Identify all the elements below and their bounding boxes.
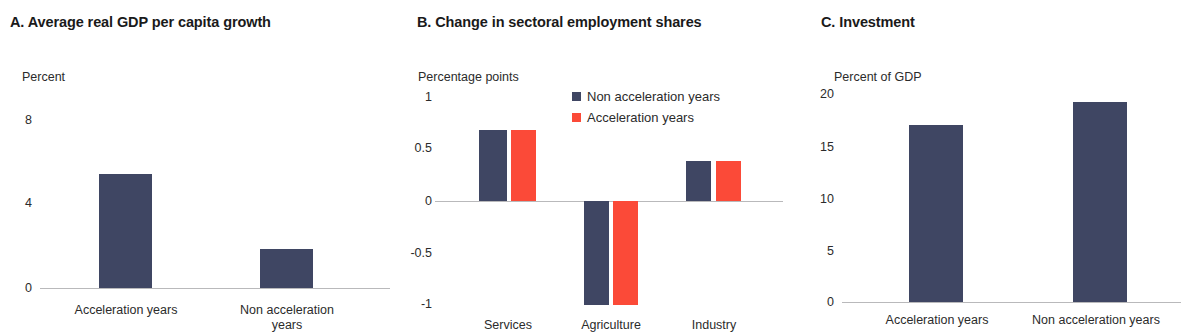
- legend-item-acceleration-years: Acceleration years: [572, 107, 720, 128]
- panel-c-title: C. Investment: [821, 13, 1161, 32]
- panel-a-bar-acceleration-years: [99, 174, 152, 288]
- panel-b-xlabel-services: Services: [458, 318, 558, 333]
- panel-b-ytick-neg1: -1: [402, 297, 432, 311]
- panel-a-baseline: [40, 288, 390, 289]
- panel-b-bar-services-acceleration: [511, 130, 536, 201]
- panel-a-title: A. Average real GDP per capita growth: [10, 13, 390, 32]
- panel-c-ytick-20: 20: [808, 87, 834, 101]
- panel-b-legend: Non acceleration years Acceleration year…: [572, 86, 720, 128]
- panel-c-ytick-5: 5: [808, 244, 834, 258]
- panel-b-bar-agriculture-acceleration: [613, 201, 638, 305]
- panel-a-xlabel-non-acceleration-years: Non acceleration years: [232, 303, 342, 333]
- panel-c-axis-unit: Percent of GDP: [834, 70, 922, 84]
- panel-c-ytick-0: 0: [808, 295, 834, 309]
- legend-swatch-non-acceleration-icon: [572, 92, 581, 101]
- legend-item-non-acceleration-years: Non acceleration years: [572, 86, 720, 107]
- panel-c-bar-acceleration-years: [909, 125, 963, 302]
- panel-a-ytick-4: 4: [8, 196, 32, 210]
- panel-b-bar-services-non-acceleration: [479, 130, 507, 201]
- panel-b-ytick-0: 0: [402, 194, 432, 208]
- panel-c-ytick-10: 10: [808, 192, 834, 206]
- panel-c-xlabel-acceleration-years: Acceleration years: [876, 313, 998, 328]
- panel-b-bar-industry-non-acceleration: [686, 161, 711, 201]
- panel-c-ytick-15: 15: [808, 140, 834, 154]
- panel-c-baseline: [842, 302, 1181, 303]
- panel-a-axis-unit: Percent: [22, 70, 65, 84]
- panel-a-xlabel-acceleration-years: Acceleration years: [61, 303, 191, 318]
- panel-b-bar-industry-acceleration: [716, 161, 741, 201]
- panel-b-xlabel-industry: Industry: [664, 318, 764, 333]
- panel-a-gdp-growth: A. Average real GDP per capita growth Pe…: [0, 0, 400, 334]
- panel-b-xlabel-agriculture: Agriculture: [561, 318, 661, 333]
- panel-b-zero-line: [435, 201, 783, 202]
- panel-c-xlabel-non-acceleration-years: Non acceleration years: [1011, 313, 1181, 328]
- legend-label-non-acceleration-years: Non acceleration years: [587, 89, 720, 104]
- panel-c-investment: C. Investment Percent of GDP 20 15 10 5 …: [800, 0, 1181, 334]
- panel-a-bar-non-acceleration-years: [260, 249, 313, 288]
- panel-a-ytick-8: 8: [8, 113, 32, 127]
- legend-label-acceleration-years: Acceleration years: [587, 110, 694, 125]
- panel-b-ytick-neg0point5: -0.5: [402, 246, 432, 260]
- panel-b-axis-unit: Percentage points: [418, 70, 519, 84]
- panel-b-ytick-0point5: 0.5: [402, 141, 432, 155]
- panel-b-sectoral-employment: B. Change in sectoral employment shares …: [400, 0, 800, 334]
- figure-panels: A. Average real GDP per capita growth Pe…: [0, 0, 1181, 334]
- panel-a-ytick-0: 0: [8, 281, 32, 295]
- panel-c-bar-non-acceleration-years: [1073, 102, 1127, 302]
- legend-swatch-acceleration-icon: [572, 113, 581, 122]
- panel-b-title: B. Change in sectoral employment shares: [417, 13, 747, 32]
- panel-b-bar-agriculture-non-acceleration: [584, 201, 609, 305]
- panel-b-ytick-1: 1: [402, 90, 432, 104]
